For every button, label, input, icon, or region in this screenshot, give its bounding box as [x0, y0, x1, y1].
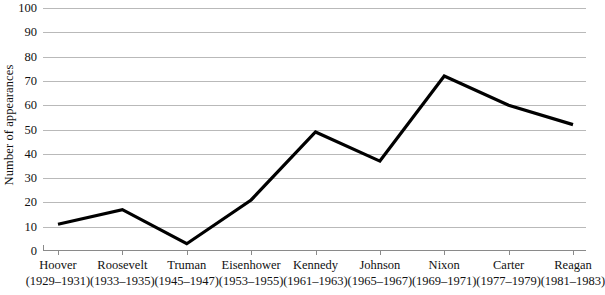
x-category-label-reagan: Reagan(1981–1983) — [541, 258, 605, 289]
x-category-years: (1933–1935) — [90, 274, 155, 290]
y-tick-label: 80 — [25, 49, 38, 64]
x-tick — [187, 250, 188, 255]
x-category-name: Hoover — [26, 258, 91, 274]
plot-area: 0102030405060708090100 — [43, 8, 586, 251]
x-tick — [444, 250, 445, 255]
x-category-name: Reagan — [541, 258, 605, 274]
x-category-label-eisenhower: Eisenhower(1953–1955) — [219, 258, 284, 289]
x-category-name: Johnson — [348, 258, 413, 274]
x-category-name: Roosevelt — [90, 258, 155, 274]
x-category-years: (1929–1931) — [26, 274, 91, 290]
x-tick — [509, 250, 510, 255]
series-line-appearances — [58, 76, 573, 244]
y-tick-label: 60 — [25, 98, 38, 113]
x-category-years: (1981–1983) — [541, 274, 605, 290]
y-tick-label: 10 — [25, 219, 38, 234]
y-tick-label: 30 — [25, 171, 38, 186]
x-tick — [251, 250, 252, 255]
x-category-label-truman: Truman(1945–1947) — [154, 258, 219, 289]
y-tick-label: 20 — [25, 195, 38, 210]
x-category-name: Carter — [476, 258, 541, 274]
x-category-label-roosevelt: Roosevelt(1933–1935) — [90, 258, 155, 289]
x-axis-line — [43, 250, 586, 251]
x-category-name: Truman — [154, 258, 219, 274]
x-category-name: Nixon — [412, 258, 477, 274]
y-tick-label: 90 — [25, 25, 38, 40]
x-tick — [380, 250, 381, 255]
y-tick-label: 100 — [18, 1, 37, 16]
x-category-years: (1945–1947) — [154, 274, 219, 290]
x-category-label-johnson: Johnson(1965–1967) — [348, 258, 413, 289]
y-tick-label: 50 — [25, 122, 38, 137]
x-category-years: (1965–1967) — [348, 274, 413, 290]
x-category-name: Eisenhower — [219, 258, 284, 274]
x-tick — [58, 250, 59, 255]
x-tick — [573, 250, 574, 255]
x-category-label-nixon: Nixon(1969–1971) — [412, 258, 477, 289]
x-tick — [316, 250, 317, 255]
y-tick-label: 70 — [25, 73, 38, 88]
y-axis-title: Number of appearances — [0, 0, 18, 250]
y-tick-label: 0 — [31, 244, 37, 259]
x-category-years: (1961–1963) — [283, 274, 348, 290]
x-category-years: (1969–1971) — [412, 274, 477, 290]
x-category-years: (1953–1955) — [219, 274, 284, 290]
x-category-name: Kennedy — [283, 258, 348, 274]
x-tick — [122, 250, 123, 255]
x-category-label-hoover: Hoover(1929–1931) — [26, 258, 91, 289]
x-category-label-kennedy: Kennedy(1961–1963) — [283, 258, 348, 289]
series-line-group — [43, 8, 586, 251]
y-tick-label: 40 — [25, 146, 38, 161]
x-category-years: (1977–1979) — [476, 274, 541, 290]
x-category-label-carter: Carter(1977–1979) — [476, 258, 541, 289]
